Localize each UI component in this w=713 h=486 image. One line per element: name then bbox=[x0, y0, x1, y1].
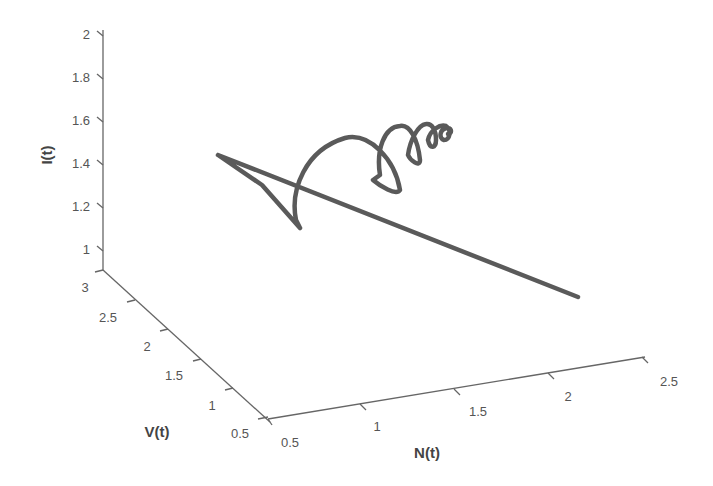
trajectory-curve bbox=[218, 124, 578, 297]
svg-text:0.5: 0.5 bbox=[281, 435, 299, 450]
svg-text:1.6: 1.6 bbox=[72, 113, 90, 128]
y-axis-title: V(t) bbox=[145, 423, 170, 440]
x-axis-ticks bbox=[268, 357, 648, 425]
svg-text:2: 2 bbox=[564, 389, 571, 404]
svg-text:1.8: 1.8 bbox=[72, 70, 90, 85]
svg-text:2: 2 bbox=[83, 27, 90, 42]
y-axis-tick-labels: 3 2.5 2 1.5 1 0.5 bbox=[81, 280, 249, 441]
svg-text:2: 2 bbox=[143, 339, 150, 354]
svg-text:2.5: 2.5 bbox=[660, 374, 678, 389]
x-axis-line bbox=[268, 357, 645, 419]
svg-text:1.4: 1.4 bbox=[72, 156, 90, 171]
z-axis-tick-labels: 2 1.8 1.6 1.4 1.2 1 bbox=[72, 27, 90, 257]
svg-text:1: 1 bbox=[208, 398, 215, 413]
z-axis-ticks bbox=[95, 31, 103, 272]
svg-text:0.5: 0.5 bbox=[231, 426, 249, 441]
svg-text:2.5: 2.5 bbox=[99, 310, 117, 325]
svg-text:1.5: 1.5 bbox=[165, 368, 183, 383]
3d-line-plot: 2 1.8 1.6 1.4 1.2 1 I(t) 3 2.5 2 1.5 1 0… bbox=[0, 0, 713, 486]
svg-text:1: 1 bbox=[373, 419, 380, 434]
x-axis-title: N(t) bbox=[414, 444, 440, 461]
x-axis-tick-labels: 0.5 1 1.5 2 2.5 bbox=[281, 374, 678, 450]
y-axis-line bbox=[103, 270, 270, 422]
svg-text:1: 1 bbox=[83, 242, 90, 257]
svg-text:3: 3 bbox=[81, 280, 88, 295]
z-axis-title: I(t) bbox=[38, 145, 55, 164]
svg-text:1.2: 1.2 bbox=[72, 199, 90, 214]
svg-text:1.5: 1.5 bbox=[469, 404, 487, 419]
